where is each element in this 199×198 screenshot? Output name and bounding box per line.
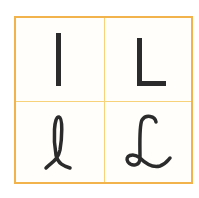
cursive-lowercase-l-glyph bbox=[46, 117, 70, 168]
print-uppercase-i-glyph bbox=[56, 33, 61, 86]
print-uppercase-l-glyph bbox=[137, 38, 166, 86]
letters-layer bbox=[0, 0, 199, 198]
cursive-uppercase-l-glyph bbox=[127, 116, 170, 166]
